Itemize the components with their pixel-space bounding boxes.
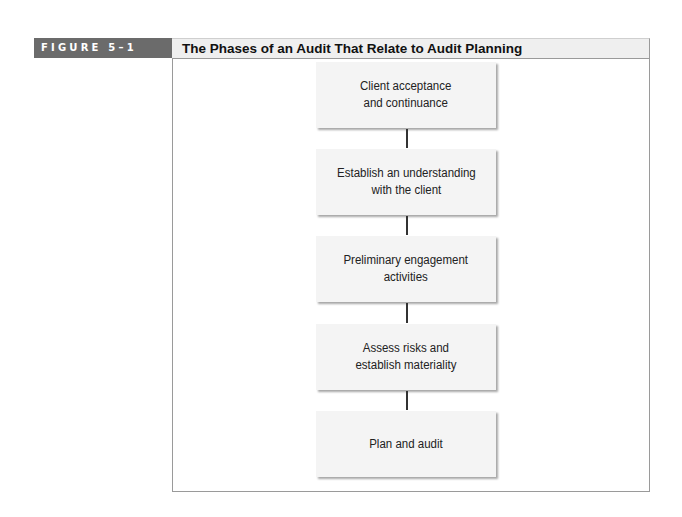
step-preliminary-engagement: Preliminary engagement activities — [316, 236, 496, 302]
step-client-acceptance: Client acceptance and continuance — [316, 62, 496, 128]
step-label: Establish an understanding with the clie… — [337, 165, 476, 199]
connector-line — [406, 303, 408, 323]
step-establish-understanding: Establish an understanding with the clie… — [316, 149, 496, 215]
connector-line — [406, 391, 408, 410]
connector-line — [406, 216, 408, 235]
figure-number-label: FIGURE 5–1 — [34, 38, 172, 58]
step-assess-risks: Assess risks and establish materiality — [316, 324, 496, 390]
connector-line — [406, 129, 408, 148]
step-label: Preliminary engagement activities — [344, 252, 469, 286]
figure-title: The Phases of an Audit That Relate to Au… — [172, 38, 650, 59]
step-label: Plan and audit — [369, 436, 443, 453]
step-label: Client acceptance and continuance — [360, 78, 451, 112]
step-plan-and-audit: Plan and audit — [316, 411, 496, 477]
step-label: Assess risks and establish materiality — [356, 340, 457, 374]
